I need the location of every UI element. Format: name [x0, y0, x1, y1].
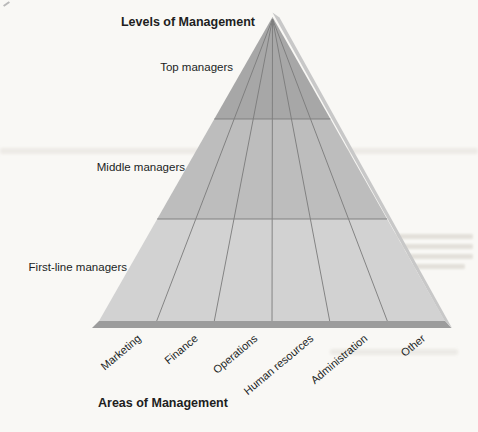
- figure-canvas: INTRODUCTION TO MANAGEMENT Levels of Man…: [0, 0, 478, 432]
- management-pyramid: [0, 0, 478, 432]
- axis-title-areas-of-management: Areas of Management: [98, 396, 228, 410]
- level-label-first-line-managers: First-line managers: [29, 261, 127, 273]
- level-label-top-managers: Top managers: [160, 61, 233, 73]
- divider-line: [272, 19, 273, 321]
- diagram-title: Levels of Management: [121, 15, 255, 29]
- level-label-middle-managers: Middle managers: [97, 161, 185, 173]
- pyramid-base-shadow: [92, 321, 452, 328]
